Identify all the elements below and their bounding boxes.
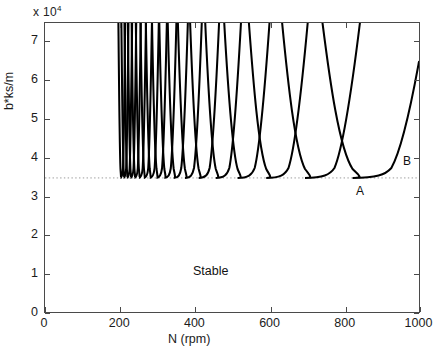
y-tick-label: 2: [12, 227, 38, 241]
lobe-curve-group: [118, 23, 419, 178]
x-tick-mark: [45, 307, 46, 312]
y-tick-mark: [414, 41, 419, 42]
y-tick-mark: [45, 274, 50, 275]
y-tick-mark: [414, 119, 419, 120]
y-tick-mark: [414, 158, 419, 159]
x-tick-mark: [120, 23, 121, 28]
y-tick-mark: [45, 41, 50, 42]
plot-area: Stable A B: [44, 22, 420, 313]
y-tick-mark: [414, 197, 419, 198]
y-tick-mark: [414, 274, 419, 275]
y-tick-label: 4: [12, 150, 38, 164]
y-axis-exponent-base: x 10: [33, 5, 57, 19]
x-tick-mark: [195, 307, 196, 312]
y-tick-mark: [45, 197, 50, 198]
y-tick-mark: [414, 235, 419, 236]
y-tick-mark: [45, 313, 50, 314]
stability-lobe-curves: [45, 23, 419, 312]
y-tick-label: 1: [12, 266, 38, 280]
annotation-label-a: A: [356, 184, 364, 198]
x-tick-label: 800: [323, 316, 367, 330]
x-axis-title: N (rpm): [168, 332, 210, 346]
x-tick-label: 200: [97, 316, 141, 330]
y-axis-exponent-label: x 104: [33, 4, 62, 19]
y-tick-mark: [414, 80, 419, 81]
x-tick-mark: [271, 23, 272, 28]
x-tick-mark: [420, 307, 421, 312]
figure-caption: [4, 349, 436, 356]
stable-region-label: Stable: [193, 264, 228, 278]
annotation-label-b: B: [403, 154, 411, 168]
x-tick-mark: [271, 307, 272, 312]
y-axis-exponent-power: 4: [57, 4, 62, 13]
x-tick-mark: [346, 307, 347, 312]
x-tick-mark: [120, 307, 121, 312]
x-tick-label: 600: [248, 316, 292, 330]
x-tick-mark: [346, 23, 347, 28]
y-tick-mark: [414, 313, 419, 314]
y-tick-label: 3: [12, 189, 38, 203]
y-tick-mark: [45, 158, 50, 159]
x-tick-label: 0: [22, 316, 66, 330]
lobe-curve: [282, 23, 360, 178]
y-tick-mark: [45, 235, 50, 236]
x-tick-label: 400: [172, 316, 216, 330]
y-axis-title: b*ks/m: [2, 46, 16, 136]
y-tick-mark: [45, 119, 50, 120]
stability-lobe-figure: x 104: [0, 0, 440, 356]
y-tick-mark: [45, 80, 50, 81]
x-tick-mark: [195, 23, 196, 28]
x-tick-label: 1000: [397, 316, 440, 330]
